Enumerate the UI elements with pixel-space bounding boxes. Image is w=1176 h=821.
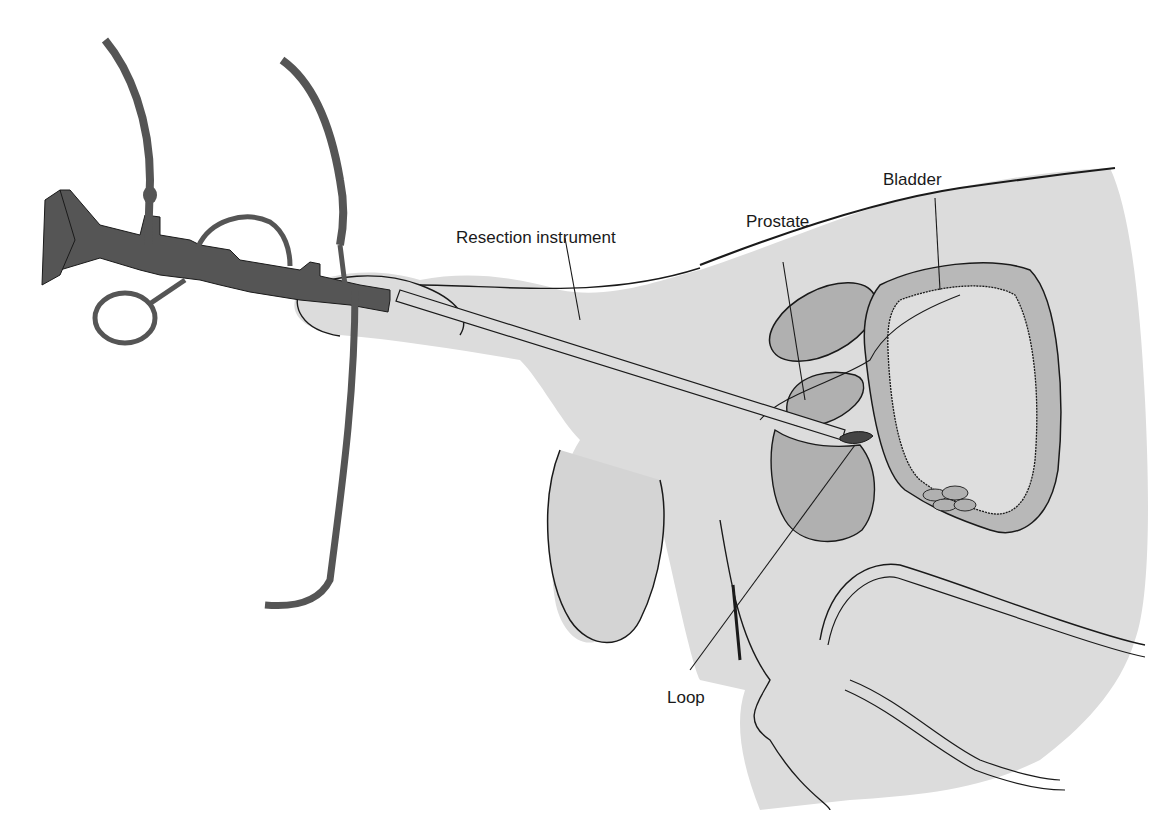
resection-instrument-label: Resection instrument bbox=[456, 228, 616, 248]
loop-label: Loop bbox=[667, 688, 705, 708]
prostate-label: Prostate bbox=[746, 212, 809, 232]
bladder-label: Bladder bbox=[883, 170, 942, 190]
turp-illustration bbox=[0, 0, 1176, 821]
